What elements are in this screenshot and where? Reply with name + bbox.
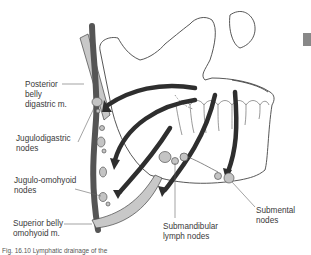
page-tab-marker [303, 33, 311, 46]
label-submandibular-lymph-nodes: Submandibular lymph nodes [163, 222, 218, 242]
figure-caption: Fig. 16.10 Lymphatic drainage of the [2, 247, 107, 254]
label-superior-belly-omohyoid: Superior belly omohyoid m. [13, 219, 63, 239]
lymph-vessel [188, 157, 218, 172]
internal-jugular-vein [92, 26, 98, 230]
label-jugulo-omohyoid-nodes: Jugulo-omohyoid nodes [14, 176, 76, 196]
label-posterior-belly-digastric: Posterior belly digastric m. [25, 80, 67, 110]
label-jugulodigastric-nodes: Jugulodigastric nodes [16, 134, 71, 154]
label-submental-nodes: Submental nodes [256, 206, 295, 226]
